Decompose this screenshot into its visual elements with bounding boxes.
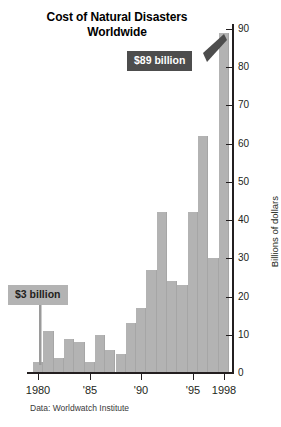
bar-slot <box>43 25 53 373</box>
bar-series <box>33 25 229 373</box>
y-axis-tick <box>226 335 233 336</box>
plot-area <box>33 25 229 373</box>
y-axis-tick <box>226 105 233 106</box>
bar <box>64 339 74 373</box>
low-callout: $3 billion <box>8 285 68 305</box>
bar-slot <box>126 25 136 373</box>
y-axis-tick-label: 50 <box>238 177 249 187</box>
x-axis-tick-label: '95 <box>186 385 200 396</box>
y-axis-tick <box>226 67 233 68</box>
y-axis-tick-label: 60 <box>238 139 249 149</box>
y-axis-tick <box>226 144 233 145</box>
bar <box>198 136 208 373</box>
bar <box>208 258 218 373</box>
bar-slot <box>208 25 218 373</box>
bar <box>167 281 177 373</box>
chart-figure: Cost of Natural Disasters Worldwide 0102… <box>0 0 281 427</box>
x-axis-tick <box>38 374 39 380</box>
x-axis-tick <box>141 374 142 380</box>
bar-slot <box>146 25 156 373</box>
bar <box>95 335 105 373</box>
bar <box>188 212 198 373</box>
y-axis-tick <box>226 220 233 221</box>
y-axis-tick-label: 10 <box>238 330 249 340</box>
y-axis-tick-label: 80 <box>238 62 249 72</box>
y-axis-tick <box>226 182 233 183</box>
high-callout: $89 billion <box>127 51 192 71</box>
x-axis-tick-label: 1998 <box>212 385 236 396</box>
bar-slot <box>85 25 95 373</box>
y-axis-title: Billions of dollars <box>270 196 280 267</box>
source-note: Data: Worldwatch Institute <box>30 403 129 413</box>
y-axis-tick-label: 30 <box>238 253 249 263</box>
bar <box>177 285 187 373</box>
y-axis-tick-label: 70 <box>238 100 249 110</box>
bar <box>74 342 84 373</box>
bar-slot <box>33 25 43 373</box>
y-axis-tick <box>226 373 233 374</box>
bar-slot <box>95 25 105 373</box>
bar-slot <box>177 25 187 373</box>
x-axis-tick <box>193 374 194 380</box>
bar-slot <box>136 25 146 373</box>
y-axis-tick <box>226 297 233 298</box>
y-axis-tick-label: 90 <box>238 24 249 34</box>
bar-slot <box>157 25 167 373</box>
y-axis-tick <box>226 258 233 259</box>
x-axis-line <box>27 372 233 374</box>
bar-slot <box>219 25 229 373</box>
bar-slot <box>74 25 84 373</box>
bar <box>219 33 229 373</box>
x-axis-tick <box>90 374 91 380</box>
bar <box>126 323 136 373</box>
bar <box>43 331 53 373</box>
y-axis-line <box>232 24 234 374</box>
x-axis-tick-label: 1980 <box>26 385 50 396</box>
bar-slot <box>105 25 115 373</box>
bar <box>116 354 126 373</box>
bar-slot <box>116 25 126 373</box>
y-axis-tick-label: 40 <box>238 215 249 225</box>
bar-slot <box>198 25 208 373</box>
y-axis-tick <box>226 29 233 30</box>
bar <box>136 308 146 373</box>
bar <box>146 270 156 373</box>
bar-slot <box>54 25 64 373</box>
x-axis-tick <box>224 374 225 380</box>
bar-slot <box>64 25 74 373</box>
x-axis-tick-label: '90 <box>134 385 148 396</box>
x-axis-tick-label: '85 <box>83 385 97 396</box>
bar <box>157 212 167 373</box>
bar-slot <box>167 25 177 373</box>
chart-title-line-1: Cost of Natural Disasters <box>18 10 216 25</box>
y-axis-tick-label: 20 <box>238 292 249 302</box>
bar <box>105 350 115 373</box>
bar-slot <box>188 25 198 373</box>
y-axis-tick-label: 0 <box>238 368 244 378</box>
bar <box>54 358 64 373</box>
